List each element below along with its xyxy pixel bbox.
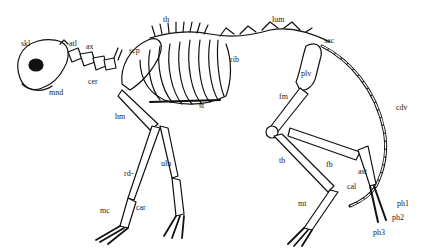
label-phalanx-2: ph2 [392,214,404,222]
label-atlas: atl [69,40,77,48]
label-sacrum: sac [324,37,334,45]
label-mandible: mnd [49,89,63,97]
label-phalanx-1: ph1 [397,200,409,208]
label-radius: rd- [124,170,133,178]
scapula-graphic [122,39,162,90]
label-ulna: uln [161,160,171,168]
label-axis: ax [86,43,94,51]
label-caudal-vertebrae: cdv [396,104,408,112]
label-sternum: st [199,102,204,110]
label-femur: fm [279,93,288,101]
label-metacarpals: mc [100,207,110,215]
thoracic-spine-graphic [150,22,330,42]
skeleton-drawing [0,0,427,252]
label-carpals: car [136,204,146,212]
label-thoracic: th [163,16,169,24]
label-phalanx-3: ph3 [373,229,385,237]
label-calcaneus: cal [347,183,356,191]
cat-skeleton-diagram: skl atl ax cer mnd th scp st hm lum sac … [0,0,427,252]
label-skull: skl [21,40,30,48]
cervical-vertebrae-graphic [68,48,122,70]
label-scapula: scp [129,47,140,55]
label-tibia: tb [279,157,285,165]
label-metatarsals: mt [298,200,306,208]
label-humerus: hm [115,113,125,121]
label-astragalus: ast [358,168,367,176]
label-fibula: fb [326,161,333,169]
pelvis-graphic [296,44,321,90]
label-pelvis: plv [301,70,311,78]
label-rib: rib [230,56,239,64]
label-cervical: cer [88,78,98,86]
label-lumbar: lum [272,16,284,24]
